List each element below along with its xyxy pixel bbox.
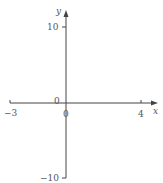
x-axis-arrow-icon bbox=[151, 101, 158, 106]
origin-label-x-side: 0 bbox=[63, 109, 69, 119]
origin-label-y-side: 0 bbox=[54, 96, 60, 106]
y-tick-label-10: 10 bbox=[47, 22, 59, 32]
x-tick-label-4: 4 bbox=[138, 109, 144, 119]
y-axis-arrow-icon bbox=[64, 10, 69, 17]
y-tick-label-neg10: −10 bbox=[40, 173, 59, 183]
x-axis-label: x bbox=[153, 106, 158, 116]
x-tick-label-neg3: −3 bbox=[4, 108, 18, 118]
y-axis-label: y bbox=[55, 6, 62, 16]
coordinate-axes-diagram: y x 10 −10 −3 4 0 0 bbox=[0, 0, 163, 183]
